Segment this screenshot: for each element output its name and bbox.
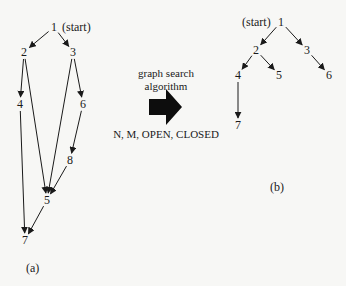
algorithm-label-line2: algorithm [145,80,188,93]
edge-2-4 [242,56,252,70]
edge-1-2 [261,27,277,45]
edge-5-7 [28,206,43,234]
node-2: 2 [21,46,27,58]
graph-b-start-label: (start) [242,16,271,28]
edge-8-5 [51,166,67,194]
edge-4-7 [20,111,24,233]
block-arrow-icon [149,89,182,125]
node-5: 5 [276,69,282,81]
edge-2-4 [21,59,24,97]
edge-1-3 [286,27,302,45]
node-3: 3 [304,44,310,56]
edge-3-5 [48,59,72,193]
node-8: 8 [67,154,73,166]
node-3: 3 [70,46,76,58]
graph-a-edges [20,32,81,234]
graph-a-start-label: (start) [62,21,91,33]
node-1: 1 [51,21,57,33]
graph-b-caption: (b) [270,181,284,193]
edge-2-5 [25,59,46,193]
node-2: 2 [253,44,259,56]
node-6: 6 [326,69,332,81]
diagram-canvas [0,0,346,286]
node-7: 7 [22,234,28,246]
algorithm-params: N, M, OPEN, CLOSED [113,128,219,141]
edge-1-3 [58,33,69,47]
edge-6-8 [72,111,82,153]
node-4: 4 [17,98,23,110]
node-5: 5 [44,194,50,206]
algorithm-label-line1: graph search [138,67,194,80]
node-7: 7 [235,119,241,131]
node-4: 4 [235,69,241,81]
graph-a-caption: (a) [26,262,39,274]
node-6: 6 [80,98,86,110]
edge-1-2 [29,32,48,48]
edge-3-6 [312,55,325,69]
edge-3-6 [74,59,81,97]
node-1: 1 [278,16,284,28]
edge-2-5 [261,55,275,70]
